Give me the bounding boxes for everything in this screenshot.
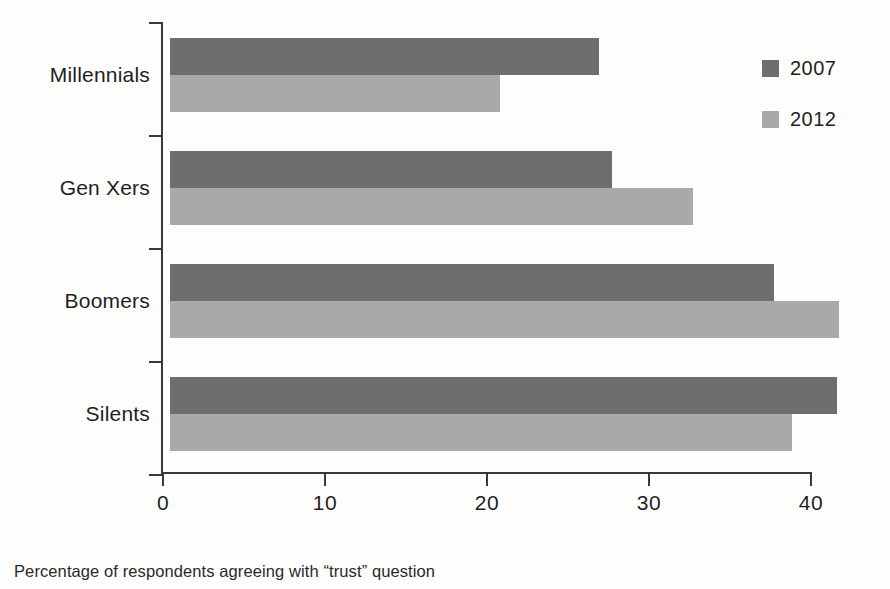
legend-item-2012: 2012	[762, 106, 882, 132]
legend-swatch-2012	[762, 111, 779, 128]
bar-millennials-2007	[170, 38, 599, 75]
chart-figure: MillennialsGen XersBoomersSilents 010203…	[0, 0, 890, 589]
bar-boomers-2007	[170, 264, 774, 301]
category-label-boomers: Boomers	[65, 289, 150, 313]
bar-silents-2007	[170, 377, 837, 414]
legend-item-2007: 2007	[762, 55, 882, 81]
x-axis-tick-10	[324, 473, 326, 486]
bar-millennials-2012	[170, 75, 500, 112]
y-axis-tick	[149, 361, 162, 363]
chart-legend: 20072012	[762, 55, 882, 157]
category-label-silents: Silents	[86, 402, 150, 426]
legend-label-2012: 2012	[790, 108, 837, 131]
legend-label-2007: 2007	[790, 57, 837, 80]
bar-silents-2012	[170, 414, 792, 451]
x-axis-tick-label-40: 40	[799, 491, 823, 515]
category-label-gen-xers: Gen Xers	[60, 176, 150, 200]
x-axis-tick-40	[810, 473, 812, 486]
legend-swatch-2007	[762, 60, 779, 77]
bar-gen-xers-2012	[170, 188, 693, 225]
x-axis-tick-0	[162, 473, 164, 486]
y-axis-tick	[149, 474, 162, 476]
y-axis-tick	[149, 22, 162, 24]
x-axis-tick-label-0: 0	[157, 491, 169, 515]
bar-gen-xers-2007	[170, 151, 612, 188]
bar-boomers-2012	[170, 301, 839, 338]
category-label-millennials: Millennials	[50, 63, 150, 87]
y-axis-tick	[149, 248, 162, 250]
x-axis-tick-30	[648, 473, 650, 486]
y-axis-tick	[149, 135, 162, 137]
bar-chart-plot: MillennialsGen XersBoomersSilents 010203…	[0, 0, 890, 589]
x-axis-tick-20	[486, 473, 488, 486]
x-axis-tick-label-30: 30	[637, 491, 661, 515]
chart-caption: Percentage of respondents agreeing with …	[14, 562, 435, 581]
x-axis-tick-label-20: 20	[475, 491, 499, 515]
x-axis-tick-label-10: 10	[313, 491, 337, 515]
